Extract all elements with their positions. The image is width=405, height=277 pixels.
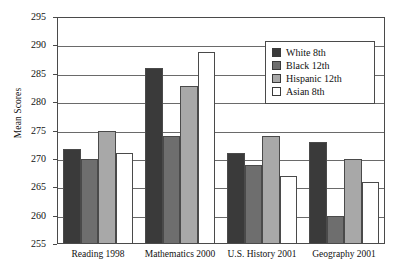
legend-label: Black 12th [286,60,330,71]
legend-item: Asian 8th [272,85,368,98]
legend-swatch-icon [272,87,281,96]
legend-label: White 8th [286,47,326,58]
bar [145,68,163,244]
bar [362,182,380,244]
bar [245,165,263,244]
x-tick-label: Geography 2001 [289,249,399,260]
y-tick-label: 290 [0,40,46,50]
bar [280,176,298,244]
bar [98,131,116,245]
legend-item: Black 12th [272,59,368,72]
legend-item: White 8th [272,46,368,59]
bar [344,159,362,244]
bar [262,136,280,244]
bar [180,86,198,244]
y-tick-label: 280 [0,97,46,107]
y-tick-label: 275 [0,126,46,136]
legend-label: Asian 8th [286,86,325,97]
bar [63,149,81,244]
y-tick-label: 270 [0,154,46,164]
bar [227,153,245,244]
bar [116,153,134,244]
legend: White 8thBlack 12thHispanic 12thAsian 8t… [265,41,375,104]
legend-label: Hispanic 12th [286,73,342,84]
bar [309,142,327,244]
legend-swatch-icon [272,48,281,57]
y-axis-title: Mean Scores [13,68,23,158]
y-tick-label: 295 [0,12,46,22]
bar [81,159,99,244]
bar [198,52,216,244]
y-tick-label: 265 [0,182,46,192]
legend-swatch-icon [272,74,281,83]
legend-swatch-icon [272,61,281,70]
bar-chart: Mean Scores 295290285280275270265260255 … [0,0,405,277]
y-tick-label: 260 [0,211,46,221]
y-tick-mark [53,244,57,245]
legend-item: Hispanic 12th [272,72,368,85]
y-tick-label: 255 [0,239,46,249]
bar [327,216,345,244]
y-tick-label: 285 [0,69,46,79]
bar [163,136,181,244]
